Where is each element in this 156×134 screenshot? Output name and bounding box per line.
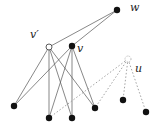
- node-b2: [46, 115, 52, 121]
- node-w: [114, 7, 120, 13]
- node-b3: [69, 115, 75, 121]
- edge-v-b1: [14, 46, 72, 106]
- node-b5: [120, 97, 126, 103]
- edge-v-b4: [72, 46, 95, 108]
- label-v: v: [77, 42, 84, 55]
- edge-vp-b1: [14, 47, 49, 106]
- label-w: w: [130, 1, 140, 14]
- node-b4: [92, 105, 98, 111]
- nodes: [11, 7, 149, 121]
- node-vp: [46, 44, 52, 50]
- label-vp: v′: [30, 28, 39, 41]
- label-u: u: [135, 62, 142, 75]
- edges: [14, 10, 146, 118]
- node-b1: [11, 103, 17, 109]
- node-u: [125, 56, 131, 62]
- node-b6: [143, 109, 149, 115]
- edge-u-b2: [49, 59, 128, 118]
- edge-v-w: [72, 10, 117, 46]
- node-v: [69, 43, 75, 49]
- graph-diagram: wv′vu: [0, 0, 156, 134]
- labels: wv′vu: [30, 1, 142, 75]
